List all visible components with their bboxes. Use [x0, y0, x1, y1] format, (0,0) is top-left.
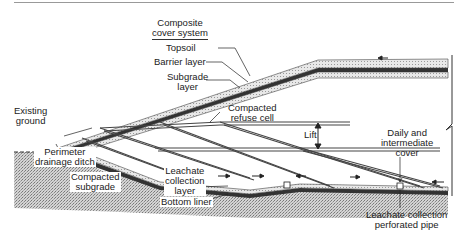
label-leachate-collection-layer: Leachate collection layer	[164, 166, 206, 196]
label-topsoil: Topsoil	[166, 43, 196, 53]
label-leachate-collection-pipe: Leachate collection perforated pipe	[366, 210, 447, 230]
label-barrier-layer: Barrier layer	[154, 57, 206, 67]
label-perimeter-drainage-ditch: Perimeter drainage ditch	[34, 147, 96, 167]
label-daily-intermediate-cover: Daily and intermediate cover	[381, 128, 433, 158]
label-lift: Lift	[304, 130, 317, 140]
label-subgrade-layer: Subgrade layer	[167, 72, 208, 92]
label-composite-cover-system: Composite cover system	[152, 18, 208, 40]
label-compacted-refuse-cell: Compacted refuse cell	[228, 103, 277, 123]
label-compacted-subgrade: Compacted subgrade	[70, 172, 121, 192]
label-existing-ground: Existing ground	[14, 106, 47, 126]
label-bottom-liner: Bottom liner	[160, 197, 213, 207]
